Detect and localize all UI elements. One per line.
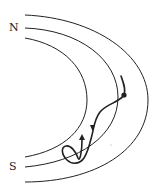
magnetic-field-diagram: N S [0, 0, 157, 187]
arrow-up-icon [79, 134, 85, 140]
diagram-svg [0, 0, 157, 187]
south-pole-label: S [9, 161, 17, 172]
speck [110, 144, 111, 145]
inner-field-line [25, 38, 87, 157]
middle-field-line [25, 28, 118, 167]
north-pole-label: N [9, 22, 19, 33]
particle-trajectory [62, 76, 124, 163]
particle-start-dot [121, 92, 126, 97]
